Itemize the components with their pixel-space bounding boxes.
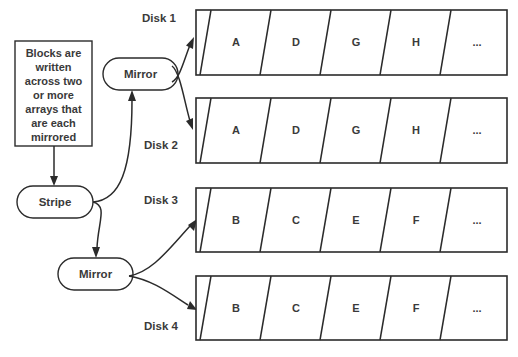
disk-label-2: Disk 2 [144, 139, 178, 151]
note-line-6: are each [31, 117, 76, 129]
disk-3-block-2: E [352, 214, 359, 226]
disk-2-block-4: ... [472, 124, 481, 136]
node-mirror-bottom[interactable]: Mirror [58, 258, 133, 290]
disk-1-block-3: H [412, 36, 420, 48]
disk-4-block-0: B [232, 302, 240, 314]
arrowhead-mirror-top-to-disk-2 [186, 118, 193, 130]
disk-3-block-4: ... [472, 214, 481, 226]
disk-array-1: A D G H ... [196, 10, 507, 75]
arrowhead-stripe-to-mirror-top [128, 90, 136, 101]
mirror-top-label: Mirror [124, 68, 158, 80]
note-line-4: or more [33, 89, 74, 101]
disk-2-block-0: A [232, 124, 240, 136]
arrowhead-mirror-top-to-disk-1 [186, 37, 194, 49]
note-line-2: written [34, 61, 71, 73]
disk-label-4: Disk 4 [144, 320, 178, 332]
arrowhead-stripe-to-mirror-bottom [92, 247, 100, 258]
disk-array-3: B C E F ... [196, 188, 507, 252]
connector-stripe-to-mirror-bottom [92, 202, 101, 258]
note-line-7: mirrored [31, 131, 76, 143]
disk-2-block-1: D [292, 124, 300, 136]
note-line-1: Blocks are [26, 47, 82, 59]
diagram-canvas: Blocks are written across two or more ar… [0, 0, 518, 357]
disk-3-block-3: F [413, 214, 420, 226]
disk-label-1: Disk 1 [142, 12, 176, 24]
disk-2-block-3: H [412, 124, 420, 136]
arrowhead-note-to-stripe [50, 176, 58, 186]
disk-2-block-2: G [352, 124, 361, 136]
disk-4-block-3: F [413, 302, 420, 314]
disk-1-block-0: A [232, 36, 240, 48]
disk-3-block-0: B [232, 214, 240, 226]
note-line-5: arrays that [25, 103, 82, 115]
connector-note-to-stripe [50, 146, 58, 186]
node-stripe[interactable]: Stripe [17, 186, 93, 218]
stripe-label: Stripe [39, 196, 72, 208]
node-mirror-top[interactable]: Mirror [103, 58, 178, 90]
connector-mirror-bottom-to-disk-3 [129, 219, 197, 276]
disk-array-4: B C E F ... [196, 276, 507, 340]
note-line-3: across two [25, 75, 83, 87]
note-box: Blocks are written across two or more ar… [15, 41, 92, 146]
disk-4-block-1: C [292, 302, 300, 314]
disk-1-block-1: D [292, 36, 300, 48]
disk-label-3: Disk 3 [144, 194, 178, 206]
disk-3-block-1: C [292, 214, 300, 226]
disk-1-block-2: G [352, 36, 361, 48]
connector-mirror-bottom-to-disk-4 [129, 276, 197, 310]
connector-stripe-to-mirror-top [93, 90, 136, 202]
disk-array-2: A D G H ... [196, 98, 507, 163]
mirror-bottom-label: Mirror [79, 268, 113, 280]
disk-1-block-4: ... [472, 36, 481, 48]
disk-4-block-4: ... [472, 302, 481, 314]
disk-4-block-2: E [352, 302, 359, 314]
